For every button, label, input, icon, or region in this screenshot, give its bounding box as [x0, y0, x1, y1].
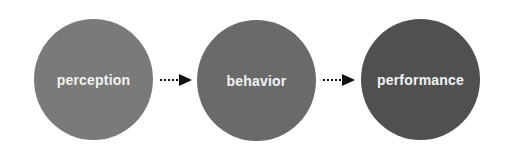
node-label: perception: [57, 72, 131, 88]
node-performance: performance: [361, 19, 480, 140]
dotted-arrow-icon: [159, 73, 193, 87]
node-label: performance: [377, 72, 464, 88]
dotted-arrow-icon: [322, 73, 356, 87]
node-behavior: behavior: [197, 20, 316, 141]
node-perception: perception: [34, 19, 153, 140]
node-label: behavior: [227, 73, 287, 89]
